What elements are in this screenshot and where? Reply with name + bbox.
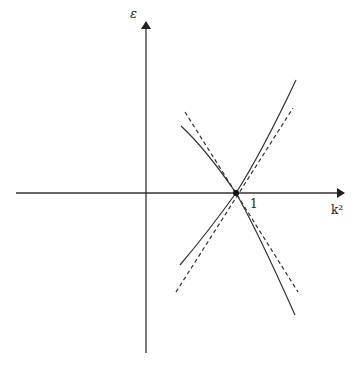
diagram-canvas (0, 0, 358, 365)
tick-label-one: 1 (250, 197, 258, 211)
dashed-asymptote-b (176, 108, 293, 292)
dashed-asymptote-a (185, 112, 298, 292)
x-axis-label: k² (331, 203, 343, 217)
crossing-point (233, 190, 239, 196)
solid-curve-b (180, 80, 296, 265)
y-axis-label: ε (130, 6, 137, 21)
solid-curve-a (181, 126, 295, 315)
